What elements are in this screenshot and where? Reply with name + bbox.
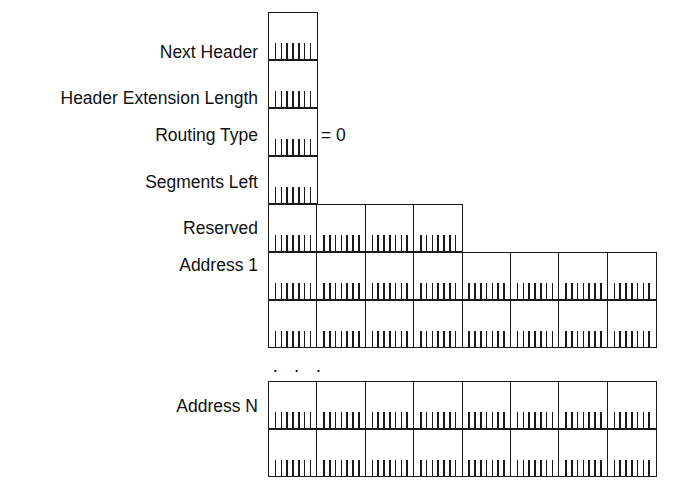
byte-cell [268, 381, 318, 429]
continuation-dots: · · · [272, 360, 327, 379]
field-label-column: Next Header Header Extension Length Rout… [0, 0, 258, 486]
field-label-reserved: Reserved [183, 220, 258, 238]
byte-cell [607, 300, 657, 348]
bit-ticks [269, 187, 317, 203]
bit-ticks [414, 460, 462, 476]
bit-ticks [317, 283, 365, 299]
byte-cell [510, 252, 560, 300]
bit-ticks [608, 331, 656, 347]
byte-cell [607, 381, 657, 429]
bit-ticks [269, 43, 317, 59]
bit-ticks [366, 235, 414, 251]
row-address-n-lower [268, 431, 657, 477]
bit-ticks [463, 460, 511, 476]
bit-ticks [317, 460, 365, 476]
byte-cell [365, 429, 415, 477]
byte-cell [413, 252, 463, 300]
bit-ticks [559, 283, 607, 299]
routing-type-value-annotation: = 0 [321, 127, 346, 145]
bit-ticks [463, 331, 511, 347]
byte-cell [558, 252, 608, 300]
bit-ticks [317, 412, 365, 428]
bit-ticks [269, 91, 317, 107]
bit-ticks [269, 283, 317, 299]
field-label-next-header: Next Header [160, 44, 258, 62]
bit-ticks [414, 412, 462, 428]
bit-ticks [511, 460, 559, 476]
byte-cell [413, 300, 463, 348]
bit-ticks [414, 283, 462, 299]
byte-cell [558, 300, 608, 348]
bit-ticks [366, 412, 414, 428]
bit-ticks [608, 283, 656, 299]
byte-cell [607, 252, 657, 300]
row-address-1-lower [268, 302, 657, 348]
byte-cell [462, 252, 512, 300]
byte-cell [558, 429, 608, 477]
byte-cell [316, 204, 366, 252]
byte-cell [462, 300, 512, 348]
bit-ticks [414, 235, 462, 251]
protocol-field-diagram: Next Header Header Extension Length Rout… [0, 0, 676, 486]
row-address-n-upper [268, 383, 657, 429]
byte-cell [316, 252, 366, 300]
bit-ticks [511, 331, 559, 347]
bit-ticks [366, 460, 414, 476]
row-address-1-upper [268, 254, 657, 300]
byte-cell [413, 381, 463, 429]
bit-ticks [463, 283, 511, 299]
bit-ticks [511, 412, 559, 428]
row-reserved [268, 206, 463, 252]
bit-ticks [269, 331, 317, 347]
byte-cell [268, 108, 318, 156]
byte-cell [462, 381, 512, 429]
byte-cell [365, 204, 415, 252]
byte-cell [268, 252, 318, 300]
byte-cell [268, 204, 318, 252]
row-segments-left [268, 158, 318, 204]
byte-cell [268, 429, 318, 477]
byte-cell [268, 156, 318, 204]
field-label-header-extension-length: Header Extension Length [61, 90, 259, 108]
byte-cell [316, 381, 366, 429]
byte-cell [510, 429, 560, 477]
field-label-segments-left: Segments Left [145, 174, 258, 192]
byte-cell [413, 204, 463, 252]
bit-ticks [463, 412, 511, 428]
bit-ticks [559, 331, 607, 347]
bit-ticks [608, 460, 656, 476]
byte-cell [558, 381, 608, 429]
bit-ticks [414, 331, 462, 347]
bit-ticks [317, 331, 365, 347]
field-label-routing-type: Routing Type [155, 127, 258, 145]
bit-ticks [366, 283, 414, 299]
field-label-address-n: Address N [176, 398, 258, 416]
byte-cell [413, 429, 463, 477]
bit-ticks [317, 235, 365, 251]
byte-cell [365, 252, 415, 300]
byte-cell [268, 12, 318, 60]
byte-cell [365, 381, 415, 429]
bit-ticks [559, 460, 607, 476]
byte-cell [607, 429, 657, 477]
byte-cell [510, 381, 560, 429]
row-header-extension-length [268, 62, 318, 108]
bit-ticks [269, 139, 317, 155]
byte-cell [365, 300, 415, 348]
bit-ticks [608, 412, 656, 428]
row-next-header [268, 14, 318, 60]
byte-cell [462, 429, 512, 477]
bit-ticks [269, 412, 317, 428]
bit-ticks [366, 331, 414, 347]
byte-cell [268, 60, 318, 108]
bit-ticks [269, 460, 317, 476]
byte-cell [510, 300, 560, 348]
bit-ticks [269, 235, 317, 251]
bit-ticks [559, 412, 607, 428]
bit-ticks [511, 283, 559, 299]
byte-cell [316, 300, 366, 348]
field-label-address-1: Address 1 [179, 257, 258, 275]
row-routing-type [268, 110, 318, 156]
byte-cell [268, 300, 318, 348]
byte-cell [316, 429, 366, 477]
